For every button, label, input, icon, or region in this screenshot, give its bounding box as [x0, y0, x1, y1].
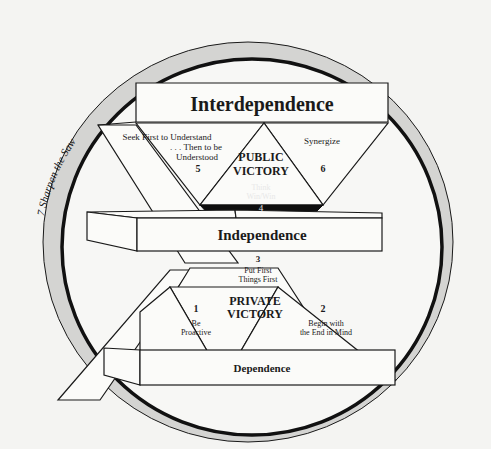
- public-victory-line2: VICTORY: [233, 164, 289, 178]
- habit-5-line2: . . . Then to be: [170, 142, 222, 152]
- independence-label: Independence: [217, 227, 307, 243]
- habit-4-line2: Win/Win: [246, 192, 275, 201]
- habit-5-number: 5: [196, 163, 201, 174]
- habit-1-line2: Proactive: [181, 328, 212, 337]
- habit-6-label: Synergize: [304, 136, 340, 146]
- habit-1-number: 1: [194, 303, 199, 314]
- habit-5-line1: Seek First to Understand: [122, 132, 212, 142]
- habit-4-number: 4: [259, 203, 264, 213]
- habit-3-number: 3: [256, 254, 261, 264]
- habit-2-line1: Begin with: [308, 319, 343, 328]
- private-victory-line2: VICTORY: [227, 307, 283, 321]
- private-victory-line1: PRIVATE: [229, 294, 281, 308]
- seven-habits-diagram: 7 Sharpen the Saw In: [0, 0, 491, 449]
- habit-2-line2: the End in Mind: [300, 328, 352, 337]
- dependence-label: Dependence: [234, 362, 291, 374]
- habit-3-line2: Things First: [239, 275, 279, 284]
- habit-1-line1: Be: [192, 319, 201, 328]
- habit-4-line1: Think: [251, 183, 270, 192]
- habit-2-number: 2: [321, 303, 326, 314]
- interdependence-label: Interdependence: [190, 93, 333, 116]
- habit-3-line1: Put First: [244, 266, 272, 275]
- habit-5-line3: Understood: [176, 152, 218, 162]
- habit-6-number: 6: [321, 163, 326, 174]
- public-victory-line1: PUBLIC: [238, 150, 283, 164]
